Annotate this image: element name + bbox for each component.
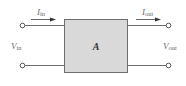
input-current-arrowhead-icon	[50, 18, 56, 22]
input-current-label: Iin	[36, 7, 46, 17]
output-bottom-terminal	[166, 63, 171, 68]
output-voltage-label: Vout	[163, 41, 177, 51]
output-current-arrowhead-icon	[155, 18, 161, 22]
input-voltage-label: Vin	[11, 41, 22, 51]
two-port-diagram: A Iin Vin Iout Vout	[0, 0, 186, 86]
output-top-terminal	[166, 23, 171, 28]
input-top-terminal	[20, 23, 25, 28]
input-bottom-terminal	[20, 63, 25, 68]
output-current-label: Iout	[141, 7, 154, 17]
block-label: A	[92, 41, 100, 52]
